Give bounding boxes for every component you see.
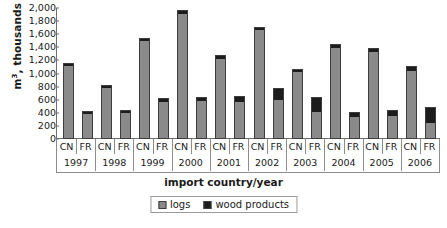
bar-cn-1998[interactable] — [101, 85, 112, 139]
bar-segment-logs — [83, 114, 92, 138]
bar-cn-2006[interactable] — [406, 66, 417, 139]
bar-segment-logs — [255, 30, 264, 138]
x-tick-year-1998: 1998 — [95, 155, 133, 170]
y-axis-title: m3, thousands — [11, 0, 24, 101]
bar-segment-logs — [121, 113, 130, 138]
y-axis-line — [56, 8, 57, 139]
bar-fr-1999[interactable] — [158, 98, 169, 139]
x-tick-country-fr-2003: FR — [305, 140, 324, 154]
bar-fr-2001[interactable] — [234, 96, 245, 139]
y-tick-label: 1,200 — [29, 56, 56, 66]
bar-group-2003 — [287, 8, 325, 139]
bar-segment-logs — [64, 66, 73, 138]
bar-segment-wood-products — [312, 98, 321, 112]
y-tick-label: 1,000 — [29, 69, 56, 79]
x-tick-country-cn-2000: CN — [172, 140, 191, 154]
x-axis-group-divider — [324, 139, 325, 171]
x-tick-year-2003: 2003 — [286, 155, 324, 170]
bar-segment-logs — [293, 72, 302, 138]
x-axis-group-divider — [133, 139, 134, 171]
bar-cn-2000[interactable] — [177, 10, 188, 139]
bar-segment-logs — [235, 102, 244, 138]
x-axis-inner-divider — [267, 139, 268, 154]
x-axis-inner-divider — [344, 139, 345, 154]
y-axis-title-exponent: 3 — [11, 74, 19, 79]
bar-fr-2002[interactable] — [273, 88, 284, 139]
chart-figure: m3, thousands 2,0001,8001,6001,4001,2001… — [0, 0, 447, 228]
x-tick-country-cn-2006: CN — [401, 140, 420, 154]
bar-cn-2003[interactable] — [292, 69, 303, 139]
bar-fr-2005[interactable] — [387, 110, 398, 139]
bar-group-2000 — [173, 8, 211, 139]
y-axis-ticks: 2,0001,8001,6001,4001,2001,0008006004002… — [23, 8, 56, 139]
bar-segment-logs — [197, 101, 206, 138]
x-tick-country-cn-2004: CN — [324, 140, 343, 154]
bar-segment-logs — [216, 59, 225, 138]
bar-group-2001 — [211, 8, 249, 139]
x-axis-title: import country/year — [0, 176, 447, 188]
bar-fr-2000[interactable] — [196, 97, 207, 139]
bar-cn-1997[interactable] — [63, 63, 74, 139]
bar-segment-logs — [178, 14, 187, 138]
bar-group-2002 — [249, 8, 287, 139]
bar-group-2006 — [402, 8, 440, 139]
x-tick-year-2005: 2005 — [363, 155, 401, 170]
plot-area — [58, 8, 440, 139]
x-axis-inner-divider — [305, 139, 306, 154]
y-tick-label: 1,800 — [29, 16, 56, 26]
x-tick-country-fr-1999: FR — [152, 140, 171, 154]
x-tick-country-cn-1999: CN — [133, 140, 152, 154]
bar-fr-2006[interactable] — [425, 107, 436, 139]
x-tick-year-2000: 2000 — [172, 155, 210, 170]
bar-segment-logs — [407, 71, 416, 138]
bar-group-2004 — [325, 8, 363, 139]
bar-cn-2004[interactable] — [330, 44, 341, 139]
bar-segment-logs — [140, 41, 149, 138]
bar-cn-2002[interactable] — [254, 27, 265, 139]
bar-cn-2001[interactable] — [215, 55, 226, 139]
bar-fr-2003[interactable] — [311, 97, 322, 139]
x-tick-year-1997: 1997 — [57, 155, 95, 170]
x-tick-year-2004: 2004 — [324, 155, 362, 170]
x-tick-year-1999: 1999 — [133, 155, 171, 170]
legend-swatch-wood-products — [203, 201, 211, 209]
x-tick-country-fr-2000: FR — [191, 140, 210, 154]
bar-cn-2005[interactable] — [368, 48, 379, 139]
y-tick-label: 800 — [38, 82, 56, 92]
chart-legend: logs wood products — [150, 196, 297, 213]
bar-fr-1997[interactable] — [82, 111, 93, 139]
x-axis-group-divider — [363, 139, 364, 171]
x-axis-group-divider — [210, 139, 211, 171]
bar-fr-2004[interactable] — [349, 112, 360, 139]
y-axis-title-unit: m — [11, 78, 23, 89]
bar-cn-1999[interactable] — [139, 38, 150, 139]
y-tick-label: 600 — [38, 95, 56, 105]
x-tick-year-2002: 2002 — [248, 155, 286, 170]
legend-label-wood-products: wood products — [215, 199, 289, 210]
y-tick-label: 1,400 — [29, 43, 56, 53]
x-tick-country-cn-1998: CN — [95, 140, 114, 154]
bar-segment-logs — [388, 116, 397, 138]
x-tick-country-cn-2001: CN — [210, 140, 229, 154]
x-axis-group-divider — [172, 139, 173, 171]
legend-swatch-logs — [158, 201, 166, 209]
x-axis-group-divider — [95, 139, 96, 171]
x-axis-label-band: CNFR1997CNFR1998CNFR1999CNFR2000CNFR2001… — [56, 139, 440, 173]
bar-segment-logs — [312, 112, 321, 138]
bar-segment-logs — [159, 102, 168, 138]
x-tick-country-fr-2004: FR — [343, 140, 362, 154]
bar-group-1998 — [96, 8, 134, 139]
x-tick-country-cn-2005: CN — [363, 140, 382, 154]
bar-group-1997 — [58, 8, 96, 139]
bar-fr-1998[interactable] — [120, 110, 131, 139]
x-tick-country-fr-2001: FR — [229, 140, 248, 154]
y-tick-label: 400 — [38, 108, 56, 118]
bar-group-2005 — [364, 8, 402, 139]
legend-item-logs: logs — [158, 199, 190, 210]
x-axis-inner-divider — [382, 139, 383, 154]
x-tick-country-cn-2002: CN — [248, 140, 267, 154]
x-tick-country-fr-1998: FR — [114, 140, 133, 154]
x-axis-inner-divider — [153, 139, 154, 154]
bar-segment-logs — [426, 123, 435, 138]
x-tick-year-2001: 2001 — [210, 155, 248, 170]
